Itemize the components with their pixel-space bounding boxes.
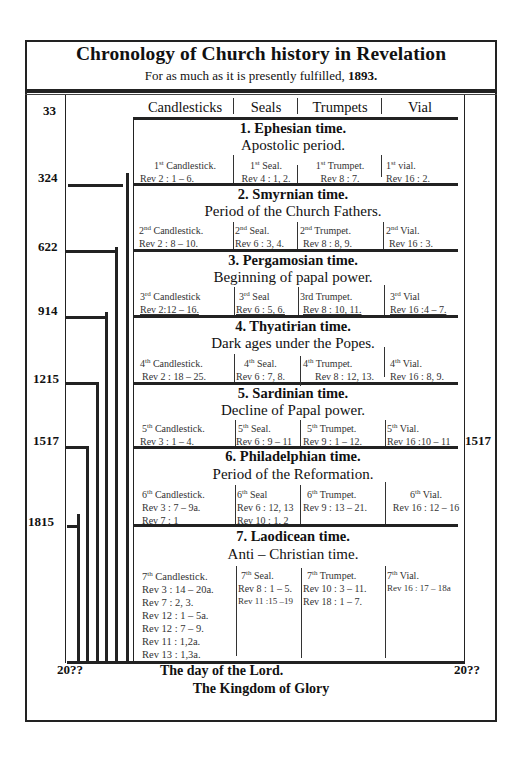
scripture-ref: Rev 8 : 8, 9. [300,237,352,250]
column-header-divider [233,98,234,114]
period-5-seal: 5th Seal.Rev 6 : 9 – 11 [236,420,292,448]
day-of-the-lord-label: The day of the Lord. [160,663,283,679]
period-6-title: 6. Philadelphian time. [133,448,453,465]
timeline-stub-622 [66,250,116,253]
scripture-ref: Rev 12 : 1 – 5a. [142,609,214,622]
scripture-ref: Rev 10 : 3 – 11. [303,582,367,595]
scripture-ref: Rev 8 : 10, 11. [300,303,362,316]
timeline-stub-1517 [66,446,88,449]
scripture-ref: Rev 12 : 7 – 9. [142,622,214,635]
scripture-ref: Rev 8 : 12, 13. [303,370,374,383]
scripture-ref: Rev 11 : 1,2a. [142,635,214,648]
period-1-seal: 1st Seal.Rev 4 : 1, 2. [236,157,296,185]
item-label: Candlestick. [164,160,216,171]
scripture-ref: Rev 9 : 13 – 21. [303,501,367,514]
year-label-324: 324 [38,170,58,186]
period-7-subtitle: Anti – Christian time. [133,546,453,563]
scripture-ref: Rev 9 : 1 – 12. [303,435,362,448]
item-label: vial. [396,160,416,171]
period-2-vial: 2nd Vial.Rev 16 : 3. [386,222,433,250]
scripture-ref: Rev 13 : 1,3a. [142,648,214,661]
subtitle-year: 1893. [348,68,377,83]
item-label: Trumpet. [317,423,356,434]
cell-divider [236,566,237,656]
item-label: Candlestick. [152,423,204,434]
chart-subtitle: For as much as it is presently fulfilled… [25,68,497,84]
chart-title: Chronology of Church history in Revelati… [25,43,497,65]
period-3-candlestick: 3rd CandlestickRev 2:12 – 16. [140,288,201,316]
scripture-ref: Rev 2 : 8 – 10. [139,237,203,250]
year-label-1517: 1517 [33,433,59,449]
period-4-vial: 4th Vial.Rev 16 : 8, 9. [390,355,444,383]
period-5-vial: 5th Vial.Rev 16 :10 – 11 [387,420,451,448]
item-label: Vial. [398,225,419,236]
year-label-1517-right: 1517 [465,433,491,449]
period-6-vial: 6th Vial.Rev 16 : 12 – 16 [388,486,464,514]
scripture-ref: Rev 3 : 7 – 9a. [142,501,205,514]
timeline-stub-1215 [66,382,98,385]
scripture-ref: Rev 16 : 12 – 16 [388,501,464,514]
scripture-ref: Rev 16 : 2. [386,172,454,185]
scripture-ref: Rev 16 :4 – 7. [390,303,446,316]
scripture-ref: Rev 2:12 – 16. [140,303,201,316]
period-2-candlestick: 2nd Candlestick.Rev 2 : 8 – 10. [139,222,203,250]
period-7-vial: 7th Vial.Rev 16 : 17 – 18a [387,567,451,595]
scripture-ref: Rev 6 : 3, 4. [235,237,284,250]
column-header-trumpets: Trumpets [300,99,380,116]
scripture-ref: Rev 2 : 1 – 6. [140,172,230,185]
cell-divider [383,222,384,249]
scripture-ref: Rev 16 : 8, 9. [390,370,444,383]
scripture-ref: Rev 8 : 7. [300,172,380,185]
period-1-vial: 1st vial.Rev 16 : 2. [386,157,454,185]
cell-divider [234,287,235,315]
item-label: Vial [401,291,420,302]
scripture-ref: Rev 18 : 1 – 7. [303,595,367,608]
period-7-title: 7. Laodicean time. [133,528,453,545]
period-2-subtitle: Period of the Church Fathers. [133,203,453,220]
period-4-title: 4. Thyatirian time. [133,318,453,335]
column-header-divider [381,98,382,114]
ordinal-suffix: nd [305,224,312,232]
year-label-1215: 1215 [33,371,59,387]
period-7-trumpet: 7th Trumpet.Rev 10 : 3 – 11.Rev 18 : 1 –… [303,567,367,608]
end-year-right: 20?? [454,662,480,678]
item-label: Trumpet. [313,291,352,302]
scripture-ref: Rev 6 : 12, 13 [237,501,293,514]
timeline-drop-1815 [77,514,80,663]
cell-divider [235,485,236,524]
item-label: Vial. [421,489,442,500]
item-label: Trumpet. [312,225,351,236]
scripture-ref: Rev 7 : 2, 3. [142,596,214,609]
item-label: Seal. [260,160,282,171]
item-label: Vial. [397,423,418,434]
item-label: Seal. [248,423,270,434]
period-4-trumpet: 4th Trumpet.Rev 8 : 12, 13. [303,355,374,383]
period-2-trumpet: 2nd Trumpet.Rev 8 : 8, 9. [300,222,352,250]
period-4-candlestick: 4th Candlestick.Rev 2 : 18 – 25. [140,355,206,383]
column-header-seals: Seals [236,99,296,116]
scripture-ref: Rev 11 :15 –19 [238,595,293,608]
cell-divider [300,356,301,386]
cell-divider [385,566,386,658]
year-label-622: 622 [38,239,58,255]
item-label: Candlestick [151,291,201,302]
period-3-trumpet: 3rd Trumpet.Rev 8 : 10, 11. [300,288,362,316]
column-header-divider [297,98,298,114]
period-5-trumpet: 5th Trumpet.Rev 9 : 1 – 12. [303,420,362,448]
item-label: Candlestick. [151,225,203,236]
year-label-914: 914 [38,303,58,319]
item-label: Trumpet. [317,489,356,500]
header-divider [25,89,497,93]
item-label: Seal [247,489,267,500]
end-year-left: 20?? [57,662,83,678]
scripture-ref: Rev 6 : 5, 6. [236,303,285,316]
period-1-title: 1. Ephesian time. [133,120,453,137]
scripture-ref: Rev 16 : 3. [386,237,433,250]
period-6-seal: 6th SealRev 6 : 12, 13Rev 10 : 1, 2 [237,486,293,527]
item-label: Vial. [397,570,418,581]
ordinal-suffix: nd [391,224,398,232]
item-label: Trumpet. [317,570,356,581]
period-1-subtitle: Apostolic period. [133,137,453,154]
scripture-ref: Rev 16 : 17 – 18a [387,582,451,595]
cell-divider [385,482,386,524]
